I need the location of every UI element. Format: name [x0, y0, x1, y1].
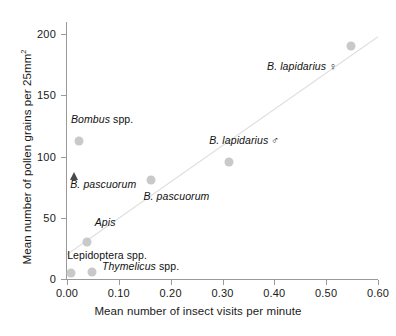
y-tick-mark	[61, 218, 66, 219]
trend-line	[0, 0, 396, 336]
data-point-label: Thymelicus spp.	[102, 260, 179, 272]
y-axis-line	[66, 22, 67, 280]
data-point-marker	[74, 136, 83, 145]
data-point-marker	[67, 268, 76, 277]
x-tick-mark	[274, 280, 275, 285]
x-tick-label: 0.20	[160, 287, 182, 299]
data-point-label: B. lapidarius ♂	[209, 134, 279, 146]
data-point-marker	[87, 267, 96, 276]
y-tick-mark	[61, 157, 66, 158]
x-tick-mark	[223, 280, 224, 285]
y-tick-mark	[61, 95, 66, 96]
data-point-label: Apis	[95, 216, 116, 228]
x-tick-label: 0.60	[367, 287, 389, 299]
data-point-marker	[225, 157, 234, 166]
scatter-plot-figure: 050100150200 0.000.100.200.300.400.500.6…	[0, 0, 396, 336]
data-point-label: B. pascuorum	[70, 178, 136, 190]
x-tick-mark	[378, 280, 379, 285]
data-point-marker	[147, 175, 156, 184]
x-tick-label: 0.40	[263, 287, 285, 299]
data-point-label: Bombus spp.	[71, 113, 133, 125]
x-axis-title: Mean number of insect visits per minute	[0, 305, 396, 317]
data-point-label: B. pascuorum	[143, 190, 209, 202]
x-tick-label: 0.00	[56, 287, 78, 299]
data-point-marker	[82, 238, 91, 247]
x-tick-label: 0.30	[211, 287, 233, 299]
data-point-label: B. lapidarius ♀	[267, 60, 337, 72]
y-tick-mark	[61, 279, 66, 280]
y-axis-title-superscript: 2	[19, 49, 28, 53]
x-tick-label: 0.50	[315, 287, 337, 299]
x-tick-mark	[326, 280, 327, 285]
y-axis-title: Mean number of pollen grains per 25mm2	[19, 32, 33, 282]
x-tick-mark	[171, 280, 172, 285]
data-point-marker	[347, 42, 356, 51]
y-tick-mark	[61, 34, 66, 35]
x-tick-mark	[67, 280, 68, 285]
y-axis-title-text: Mean number of pollen grains per 25mm	[21, 54, 33, 265]
x-tick-label: 0.10	[108, 287, 130, 299]
x-tick-mark	[119, 280, 120, 285]
